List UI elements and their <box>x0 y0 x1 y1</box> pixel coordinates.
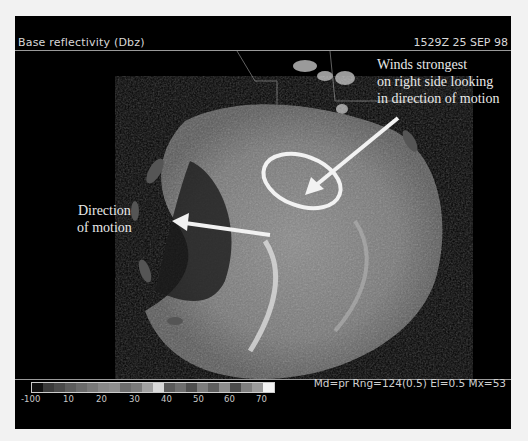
color-swatch <box>219 383 230 392</box>
color-scale-labels: -10010203040506070 <box>21 394 281 406</box>
timestamp: 1529Z 25 SEP 98 <box>413 36 508 49</box>
color-swatch <box>32 383 43 392</box>
color-swatch <box>175 383 186 392</box>
color-swatch <box>230 383 241 392</box>
color-swatch <box>109 383 120 392</box>
color-swatch <box>164 383 175 392</box>
color-swatch <box>153 383 164 392</box>
scale-label: 50 <box>193 394 204 404</box>
color-swatch <box>186 383 197 392</box>
color-swatch <box>142 383 153 392</box>
scale-label: -100 <box>21 394 40 404</box>
scale-label: 30 <box>129 394 140 404</box>
color-swatch <box>43 383 54 392</box>
color-swatch <box>98 383 109 392</box>
color-swatch <box>252 383 263 392</box>
color-swatch <box>120 383 131 392</box>
color-scale-bar <box>31 382 275 393</box>
annotation-direction-of-motion: Direction of motion <box>77 202 132 236</box>
scale-label: 10 <box>63 394 74 404</box>
color-swatch <box>263 383 274 392</box>
color-swatch <box>197 383 208 392</box>
color-swatch <box>208 383 219 392</box>
color-swatch <box>87 383 98 392</box>
product-title: Base reflectivity (Dbz) <box>18 36 145 49</box>
radar-display: Base reflectivity (Dbz) 1529Z 25 SEP 98 <box>15 16 511 429</box>
scale-label: 60 <box>224 394 235 404</box>
color-swatch <box>76 383 87 392</box>
scale-label: 70 <box>256 394 267 404</box>
color-swatch <box>131 383 142 392</box>
color-swatch <box>241 383 252 392</box>
scale-label: 20 <box>96 394 107 404</box>
color-swatch <box>54 383 65 392</box>
header-bar: Base reflectivity (Dbz) 1529Z 25 SEP 98 <box>15 16 511 51</box>
annotation-winds-strongest: Winds strongest on right side looking in… <box>377 56 499 107</box>
storm-cells <box>293 60 355 114</box>
footer-bar: -10010203040506070 Md=pr Rng=124(0.5) El… <box>15 379 511 430</box>
radar-parameters: Md=pr Rng=124(0.5) El=0.5 Mx=53 <box>314 377 506 389</box>
scale-label: 40 <box>161 394 172 404</box>
color-swatch <box>65 383 76 392</box>
